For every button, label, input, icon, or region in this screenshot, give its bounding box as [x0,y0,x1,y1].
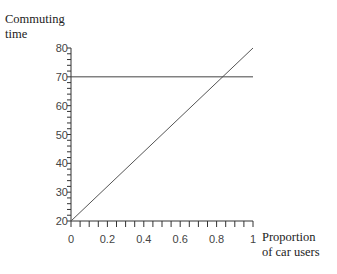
series-lines [71,48,253,221]
y-tick-label: 50 [56,129,68,141]
y-tick-label: 80 [56,42,68,54]
y-tick-label: 70 [56,71,68,83]
y-tick-label: 20 [56,215,68,227]
y-tick-label: 60 [56,100,68,112]
chart-plot-area: 2030405060708000.20.40.60.81 [0,0,337,274]
x-tick-label: 0 [68,233,74,245]
diagonal-line [71,48,253,221]
x-tick-label: 0.8 [209,233,224,245]
y-tick-label: 40 [56,157,68,169]
x-tick-label: 0.4 [136,233,151,245]
x-tick-label: 0.6 [173,233,188,245]
x-tick-label: 0.2 [100,233,115,245]
y-tick-label: 30 [56,186,68,198]
axes: 2030405060708000.20.40.60.81 [56,42,256,245]
x-tick-label: 1 [250,233,256,245]
